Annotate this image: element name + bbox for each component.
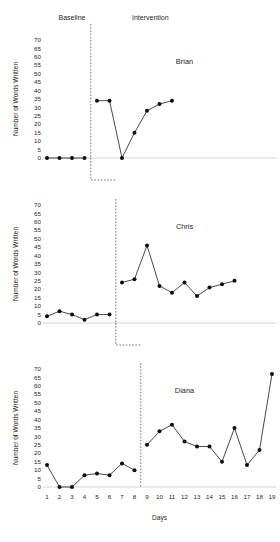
data-point-brian-day-6 bbox=[108, 99, 112, 103]
y-tick-diana-30: 30 bbox=[34, 433, 41, 440]
data-point-chris-day-6 bbox=[108, 313, 112, 317]
y-tick-diana-50: 50 bbox=[34, 399, 41, 406]
y-tick-diana-5: 5 bbox=[38, 475, 42, 482]
multiple-baseline-chart: BaselineIntervention05101520253035404550… bbox=[0, 0, 280, 542]
data-point-brian-day-3 bbox=[70, 156, 74, 160]
data-point-diana-day-18 bbox=[258, 448, 262, 452]
x-tick-9: 9 bbox=[145, 493, 149, 500]
data-point-chris-day-7 bbox=[120, 281, 124, 285]
data-point-diana-day-4 bbox=[83, 473, 87, 477]
y-tick-diana-55: 55 bbox=[34, 390, 41, 397]
phase-label-baseline: Baseline bbox=[59, 14, 86, 21]
y-tick-chris-20: 20 bbox=[34, 285, 41, 292]
y-tick-brian-5: 5 bbox=[38, 146, 42, 153]
y-tick-brian-70: 70 bbox=[34, 36, 41, 43]
x-tick-13: 13 bbox=[194, 493, 201, 500]
data-point-brian-day-11 bbox=[170, 99, 174, 103]
data-point-chris-day-8 bbox=[133, 277, 137, 281]
x-tick-12: 12 bbox=[181, 493, 188, 500]
y-tick-brian-45: 45 bbox=[34, 78, 41, 85]
data-point-chris-day-11 bbox=[170, 291, 174, 295]
series-line-diana-intervention bbox=[147, 374, 272, 465]
y-tick-brian-0: 0 bbox=[38, 154, 42, 161]
series-line-diana-baseline bbox=[47, 463, 135, 487]
y-tick-chris-45: 45 bbox=[34, 243, 41, 250]
y-tick-chris-70: 70 bbox=[34, 201, 41, 208]
y-tick-diana-45: 45 bbox=[34, 407, 41, 414]
data-point-diana-day-1 bbox=[45, 463, 49, 467]
x-tick-3: 3 bbox=[70, 493, 74, 500]
data-point-chris-day-15 bbox=[220, 282, 224, 286]
data-point-chris-day-10 bbox=[158, 284, 162, 288]
data-point-brian-day-8 bbox=[133, 131, 137, 135]
y-axis-title-diana: Number of Words Written bbox=[12, 391, 19, 465]
panel-label-chris: Chris bbox=[176, 222, 194, 231]
y-tick-brian-10: 10 bbox=[34, 137, 41, 144]
series-line-brian-intervention bbox=[97, 101, 172, 158]
y-tick-diana-65: 65 bbox=[34, 374, 41, 381]
data-point-diana-day-9 bbox=[145, 443, 149, 447]
x-tick-1: 1 bbox=[45, 493, 49, 500]
y-axis-title-brian: Number of Words Written bbox=[12, 62, 19, 136]
y-tick-diana-35: 35 bbox=[34, 424, 41, 431]
y-tick-brian-65: 65 bbox=[34, 45, 41, 52]
y-tick-chris-5: 5 bbox=[38, 311, 42, 318]
data-point-chris-day-9 bbox=[145, 243, 149, 247]
y-tick-brian-60: 60 bbox=[34, 53, 41, 60]
x-tick-5: 5 bbox=[95, 493, 99, 500]
y-tick-brian-35: 35 bbox=[34, 95, 41, 102]
data-point-diana-day-19 bbox=[270, 372, 274, 376]
data-point-brian-day-9 bbox=[145, 109, 149, 113]
y-tick-diana-25: 25 bbox=[34, 441, 41, 448]
x-tick-15: 15 bbox=[219, 493, 226, 500]
data-point-chris-day-5 bbox=[95, 313, 99, 317]
y-tick-brian-15: 15 bbox=[34, 129, 41, 136]
y-tick-chris-15: 15 bbox=[34, 294, 41, 301]
data-point-diana-day-8 bbox=[133, 468, 137, 472]
x-tick-10: 10 bbox=[156, 493, 163, 500]
x-tick-19: 19 bbox=[269, 493, 276, 500]
data-point-chris-day-12 bbox=[183, 281, 187, 285]
y-tick-chris-50: 50 bbox=[34, 235, 41, 242]
data-point-diana-day-14 bbox=[208, 445, 212, 449]
data-point-diana-day-16 bbox=[233, 426, 237, 430]
y-tick-brian-30: 30 bbox=[34, 104, 41, 111]
data-point-chris-day-3 bbox=[70, 313, 74, 317]
data-point-brian-day-1 bbox=[45, 156, 49, 160]
data-point-brian-day-7 bbox=[120, 156, 124, 160]
data-point-diana-day-6 bbox=[108, 473, 112, 477]
y-tick-diana-10: 10 bbox=[34, 466, 41, 473]
y-tick-chris-40: 40 bbox=[34, 252, 41, 259]
y-tick-diana-70: 70 bbox=[34, 365, 41, 372]
phase-connector-1 bbox=[91, 158, 116, 180]
data-point-diana-day-12 bbox=[183, 439, 187, 443]
y-tick-chris-30: 30 bbox=[34, 269, 41, 276]
data-point-diana-day-10 bbox=[158, 429, 162, 433]
chart-canvas: BaselineIntervention05101520253035404550… bbox=[0, 0, 280, 542]
data-point-diana-day-2 bbox=[58, 485, 62, 489]
y-tick-brian-40: 40 bbox=[34, 87, 41, 94]
y-tick-chris-10: 10 bbox=[34, 302, 41, 309]
x-tick-7: 7 bbox=[120, 493, 124, 500]
y-tick-chris-35: 35 bbox=[34, 260, 41, 267]
series-line-chris-intervention bbox=[122, 245, 235, 296]
data-point-brian-day-5 bbox=[95, 99, 99, 103]
data-point-diana-day-3 bbox=[70, 485, 74, 489]
panel-label-diana: Diana bbox=[175, 386, 195, 395]
data-point-brian-day-4 bbox=[83, 156, 87, 160]
data-point-diana-day-15 bbox=[220, 460, 224, 464]
data-point-chris-day-14 bbox=[208, 286, 212, 290]
data-point-chris-day-2 bbox=[58, 309, 62, 313]
data-point-diana-day-13 bbox=[195, 445, 199, 449]
x-tick-14: 14 bbox=[206, 493, 213, 500]
y-tick-brian-20: 20 bbox=[34, 120, 41, 127]
y-tick-chris-65: 65 bbox=[34, 210, 41, 217]
x-tick-17: 17 bbox=[244, 493, 251, 500]
data-point-chris-day-4 bbox=[83, 318, 87, 322]
x-tick-18: 18 bbox=[256, 493, 263, 500]
x-tick-11: 11 bbox=[169, 493, 176, 500]
x-axis-title: Days bbox=[152, 514, 168, 522]
y-tick-chris-0: 0 bbox=[38, 319, 42, 326]
y-tick-diana-40: 40 bbox=[34, 416, 41, 423]
data-point-brian-day-10 bbox=[158, 102, 162, 106]
